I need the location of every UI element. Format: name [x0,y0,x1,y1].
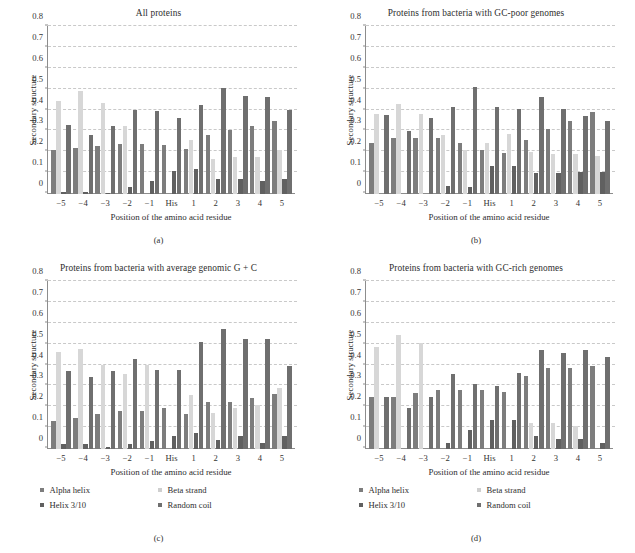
bar-group [50,281,72,449]
bar [216,440,220,449]
x-tick-label: 2 [205,453,227,463]
x-tick-label: −2 [116,453,138,463]
bar [429,118,433,194]
bar [61,192,65,194]
y-tick-label: 0.3 [350,115,361,125]
x-tick-label: 5 [271,453,293,463]
legend-swatch-icon [477,503,481,507]
bar [211,159,215,194]
bar [600,443,604,449]
bar [578,172,582,194]
y-tick-label: 0.4 [350,350,361,360]
bar [451,107,455,194]
bar [150,441,154,449]
legend-label: Random coil [168,500,212,510]
bar [118,411,122,449]
bar [583,116,587,194]
bar [128,187,132,194]
y-tick-label: 0 [357,178,361,188]
x-tick-label: 2 [523,198,545,208]
x-tick-label: 1 [183,453,205,463]
bar [495,386,499,449]
y-tick-label: 0.6 [32,53,43,63]
legend-item: Alpha helix [359,485,477,495]
legend-swatch-icon [40,503,44,507]
bar [265,339,269,449]
bar-group [390,26,412,194]
bar [221,329,225,449]
bar [517,109,521,194]
legend-label: Random coil [487,500,531,510]
x-tick-label: 5 [589,453,611,463]
bar [250,126,254,194]
x-tick-label: 5 [271,198,293,208]
bar [194,169,198,194]
bar [56,352,60,449]
bar [216,179,220,194]
bar-group [390,281,412,449]
x-tick-label: −2 [116,198,138,208]
legend-swatch-icon [359,488,363,492]
x-tick-label: −5 [368,453,390,463]
panel-c-subcaption: (c) [0,533,317,543]
panel-a-plot-area: 00.10.20.30.40.50.60.70.8 [47,26,295,194]
legend-item: Helix 3/10 [40,500,158,510]
bar [546,368,550,449]
panel-d-xtick-labels: −5−4−3−2−1His12345 [365,453,613,463]
y-tick-label: 0.3 [350,370,361,380]
bar [480,150,484,194]
bar [436,138,440,194]
bar-groups [47,281,295,449]
bar-group [368,26,390,194]
bar [128,444,132,449]
bar [473,384,477,449]
bar-groups [47,26,295,194]
bar [133,110,137,194]
panel-a-xtick-labels: −5−4−3−2−1His12345 [47,198,295,208]
panel-c-legend: Alpha helixBeta strandHelix 3/10Random c… [40,485,290,510]
y-tick-label: 0.7 [32,32,43,42]
x-tick-label: −3 [94,453,116,463]
panel-d-xlabel: Position of the amino acid residue [365,467,613,477]
bar [534,173,538,194]
bar [446,443,450,449]
bar [391,397,395,450]
panel-d-legend: Alpha helixBeta strandHelix 3/10Random c… [359,485,609,510]
bar [391,138,395,194]
x-tick-label: His [160,198,182,208]
bar [83,444,87,449]
bar-group [227,281,249,449]
bar-group [116,26,138,194]
bar [419,343,423,449]
y-tick-label: 0.4 [32,95,43,105]
bar [583,350,587,449]
y-tick-label: 0.6 [350,308,361,318]
bar [272,394,276,449]
bar [238,436,242,449]
bar [480,390,484,449]
x-tick-label: 4 [249,198,271,208]
bar [162,145,166,194]
bar-group [368,281,390,449]
bar [228,402,232,449]
y-tick-label: 0.2 [32,136,43,146]
x-tick-label: 1 [501,453,523,463]
x-tick-label: 3 [227,198,249,208]
y-tick-label: 0.2 [350,391,361,401]
bar [568,368,572,449]
bar [194,433,198,449]
panel-d: Proteins from bacteria with GC-rich geno… [317,255,635,553]
bar-groups [365,281,613,449]
bar-group [227,26,249,194]
bar-group [501,281,523,449]
bar [199,342,203,449]
panel-a: All proteins Secondary structure 00.10.2… [0,0,317,255]
y-tick-label: 0.1 [350,157,361,167]
x-tick-label: 4 [567,198,589,208]
bar [111,371,115,449]
bar [282,179,286,194]
bar [250,398,254,449]
bar [396,104,400,194]
legend-item: Beta strand [477,485,609,495]
legend-label: Helix 3/10 [369,500,406,510]
